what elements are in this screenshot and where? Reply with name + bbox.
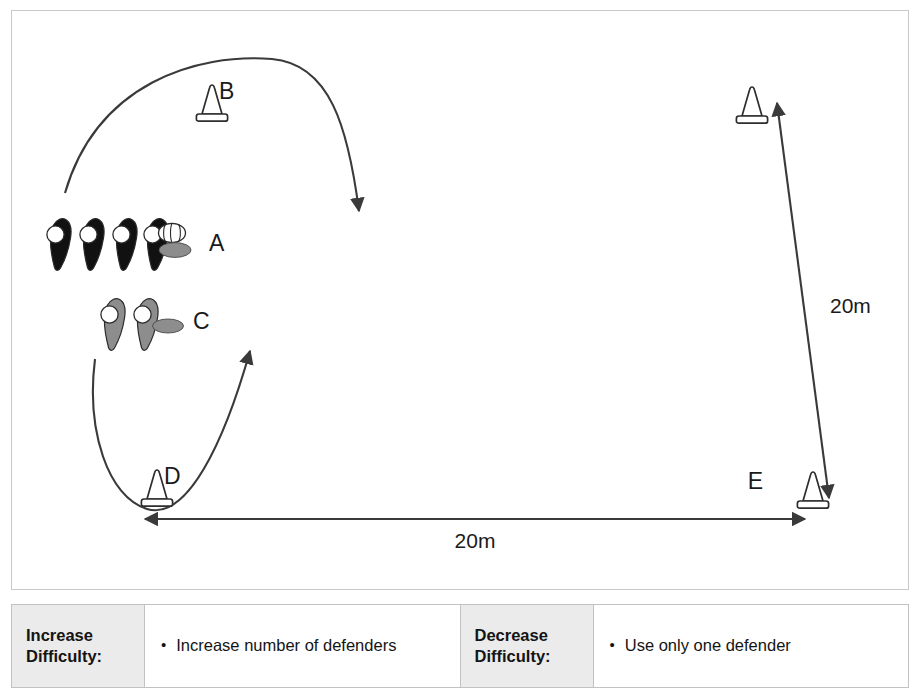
cone-d-label: D: [164, 463, 181, 489]
group-a: A: [47, 219, 225, 271]
drill-diagram: B D E: [12, 11, 910, 591]
cone-top-right: [736, 87, 767, 123]
ball-shadow-c: [153, 319, 184, 333]
player-a3: [113, 219, 137, 271]
decrease-difficulty-label-line2: Difficulty:: [475, 646, 593, 667]
bullet-icon: •: [161, 635, 166, 655]
cone-b: B: [196, 78, 234, 121]
drill-diagram-page: B D E: [0, 0, 922, 699]
vertical-distance-measure: 20m: [777, 103, 871, 498]
ball-shadow-a: [159, 243, 191, 258]
horizontal-distance-measure: 20m: [145, 519, 805, 552]
decrease-difficulty-bullet-item: • Use only one defender: [594, 629, 909, 662]
difficulty-table: Increase Difficulty: • Increase number o…: [11, 604, 909, 688]
cone-b-label: B: [219, 78, 234, 104]
bullet-icon: •: [610, 635, 615, 655]
diagram-frame: B D E: [11, 10, 909, 590]
table-row: Increase Difficulty: • Increase number o…: [12, 605, 909, 688]
ball-a: [159, 223, 186, 242]
cone-e-label: E: [748, 468, 763, 494]
increase-difficulty-label-cell: Increase Difficulty:: [12, 605, 145, 688]
group-c-label: C: [193, 308, 210, 334]
player-c1: [101, 299, 125, 351]
run-path-top: [65, 58, 359, 211]
group-c: C: [101, 299, 210, 351]
player-a2: [80, 219, 104, 271]
increase-difficulty-content-cell: • Increase number of defenders: [145, 605, 461, 688]
decrease-difficulty-text: Use only one defender: [625, 635, 791, 656]
vertical-distance-label: 20m: [830, 294, 871, 317]
decrease-difficulty-label: Decrease Difficulty:: [461, 619, 593, 673]
cone-d: D: [141, 463, 180, 506]
cone-e: E: [748, 468, 829, 508]
increase-difficulty-label-line1: Increase: [26, 625, 144, 646]
player-a1: [47, 219, 71, 271]
increase-difficulty-bullet-item: • Increase number of defenders: [145, 629, 460, 662]
decrease-difficulty-label-cell: Decrease Difficulty:: [460, 605, 593, 688]
increase-difficulty-text: Increase number of defenders: [176, 635, 396, 656]
horizontal-distance-label: 20m: [455, 529, 496, 552]
increase-difficulty-label-line2: Difficulty:: [26, 646, 144, 667]
decrease-difficulty-label-line1: Decrease: [475, 625, 593, 646]
group-a-label: A: [209, 230, 225, 256]
decrease-difficulty-content-cell: • Use only one defender: [593, 605, 909, 688]
increase-difficulty-label: Increase Difficulty:: [12, 619, 144, 673]
